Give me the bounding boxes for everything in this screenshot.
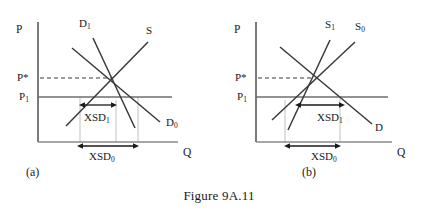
curve-label-s0-b: S0 [355,21,365,32]
xsd1-label-b: XSD1 [317,112,343,123]
curve-label-d0-a: D0 [166,117,178,128]
p1-label-a: P1 [19,91,29,102]
xsd1-arrow-b [295,102,345,108]
xsd0-arrow-a [77,143,139,149]
curve-label-d1-a: D1 [79,18,91,29]
xsd1-arrow-a [79,102,117,108]
xsd0-arrow-b [284,143,341,149]
panel-tag-b: (b) [302,165,316,180]
figure-caption: Figure 9A.11 [0,188,438,204]
figure-container: P Q P* P1 D1 S D0 XSD1 XSD0 (a) [0,0,438,217]
supply-curve-s0-b [272,42,355,120]
q-axis-label-b: Q [397,147,405,159]
panel-tag-a: (a) [26,165,39,180]
p-star-label-a: P* [17,72,29,83]
q-axis-label-a: Q [183,147,191,159]
panel-a: P Q P* P1 D1 S D0 XSD1 XSD0 (a) [0,0,219,190]
panel-b: P Q P* P1 S1 S0 D XSD1 XSD0 (b) [219,0,438,190]
p1-label-b: P1 [237,91,247,102]
curve-label-s1-b: S1 [325,19,335,30]
xsd0-label-b: XSD0 [311,151,337,162]
curve-label-d-b: D [375,122,383,133]
curve-label-s-a: S [146,25,152,36]
p-star-label-b: P* [235,72,247,83]
p-axis-label-b: P [234,24,240,36]
xsd1-label-a: XSD1 [84,112,110,123]
xsd0-label-a: XSD0 [89,151,115,162]
p-axis-label-a: P [16,24,22,36]
